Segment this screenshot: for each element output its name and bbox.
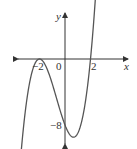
tick-label-0: 0	[56, 60, 62, 72]
tick-label-neg8: −8	[50, 119, 62, 131]
tick-label-2: 2	[91, 60, 97, 72]
polynomial-graph: −2 0 2 −8 x y	[0, 0, 137, 149]
tick-label-neg2: −2	[32, 60, 44, 72]
x-axis-label: x	[123, 60, 129, 72]
y-axis-label: y	[55, 10, 61, 22]
